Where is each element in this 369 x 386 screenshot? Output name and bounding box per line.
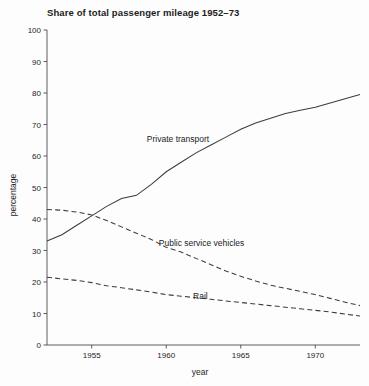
x-tick-label: 1970 [306, 351, 324, 360]
series-label: Public service vehicles [159, 238, 245, 248]
x-tick-label: 1960 [157, 351, 175, 360]
y-axis-ticks: 0102030405060708090100 [28, 26, 47, 350]
series-annotations: Private transportPublic service vehicles… [147, 134, 244, 302]
data-series [47, 95, 360, 316]
series-label: Rail [193, 291, 208, 301]
line-chart-plot: 0102030405060708090100 1955196019651970 … [0, 0, 369, 386]
y-tick-label: 100 [28, 26, 42, 35]
y-axis-title: percentage [8, 173, 18, 216]
y-tick-label: 80 [32, 89, 41, 98]
y-tick-label: 90 [32, 58, 41, 67]
series-label: Private transport [147, 134, 210, 144]
y-tick-label: 30 [32, 247, 41, 256]
y-tick-label: 20 [32, 278, 41, 287]
series-line-private-transport [47, 95, 360, 241]
y-tick-label: 40 [32, 215, 41, 224]
x-tick-label: 1955 [83, 351, 101, 360]
y-tick-label: 10 [32, 310, 41, 319]
x-tick-label: 1965 [232, 351, 250, 360]
y-tick-label: 0 [37, 341, 42, 350]
x-axis-ticks: 1955196019651970 [83, 345, 325, 360]
y-tick-label: 50 [32, 184, 41, 193]
x-axis-title: year [192, 367, 209, 377]
y-tick-label: 70 [32, 121, 41, 130]
chart-page: Share of total passenger mileage 1952–73… [0, 0, 369, 386]
y-tick-label: 60 [32, 152, 41, 161]
